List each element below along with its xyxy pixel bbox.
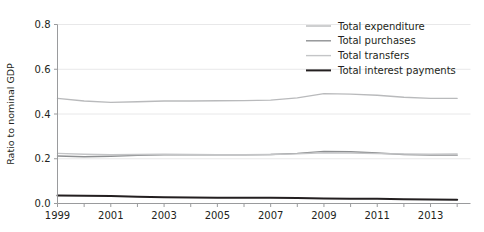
y-axis-title: Ratio to nominal GDP	[5, 63, 16, 165]
chart-figure: 19992001200320052007200920112013 0.00.20…	[0, 0, 484, 232]
x-tick-label: 1999	[45, 210, 70, 221]
x-tick-label: 2003	[151, 210, 176, 221]
line-chart: 19992001200320052007200920112013 0.00.20…	[0, 0, 484, 232]
legend-label: Total interest payments	[337, 65, 456, 76]
x-tick-label: 2001	[98, 210, 123, 221]
y-tick-label: 0.6	[35, 64, 51, 75]
x-tick-label: 2007	[258, 210, 283, 221]
x-tick-label: 2005	[205, 210, 230, 221]
legend-label: Total transfers	[337, 50, 409, 61]
x-tick-label: 2013	[418, 210, 443, 221]
y-tick-label: 0.8	[35, 19, 51, 30]
y-tick-label: 0.4	[35, 109, 51, 120]
legend-label: Total purchases	[337, 35, 416, 46]
y-tick-label: 0.0	[35, 198, 51, 209]
legend-label: Total expenditure	[337, 21, 425, 32]
x-tick-label: 2011	[365, 210, 390, 221]
x-tick-label: 2009	[311, 210, 336, 221]
y-tick-label: 0.2	[35, 153, 51, 164]
